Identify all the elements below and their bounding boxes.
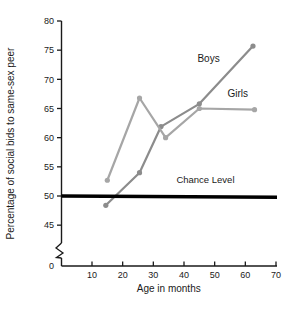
y-axis-title: Percentage of social bids to same-sex pe… — [5, 47, 16, 239]
annotation-boys: Boys — [197, 53, 219, 64]
line-chart: 4550556065707580010203040506070Age in mo… — [0, 0, 303, 320]
x-tick-label-60: 60 — [240, 270, 250, 280]
y-tick-label-45: 45 — [44, 220, 54, 230]
data-point-boys-3 — [197, 101, 202, 106]
data-point-girls-1 — [137, 95, 142, 100]
x-tick-label-30: 30 — [148, 270, 158, 280]
data-point-boys-4 — [250, 43, 255, 48]
y-tick-label-80: 80 — [44, 16, 54, 26]
y-tick-label-zero: 0 — [49, 261, 54, 271]
chance-level-line — [62, 196, 278, 197]
data-point-girls-4 — [252, 107, 257, 112]
x-tick-label-50: 50 — [210, 270, 220, 280]
x-tick-label-20: 20 — [118, 270, 128, 280]
x-tick-label-40: 40 — [179, 270, 189, 280]
y-axis-break-icon — [56, 243, 63, 258]
y-tick-label-60: 60 — [44, 133, 54, 143]
annotation-chance-level: Chance Level — [176, 174, 234, 185]
data-point-girls-0 — [105, 178, 110, 183]
y-tick-label-55: 55 — [44, 162, 54, 172]
x-tick-label-70: 70 — [271, 270, 281, 280]
series-line-girls — [107, 98, 254, 180]
x-axis-title: Age in months — [137, 283, 201, 294]
y-tick-label-75: 75 — [44, 45, 54, 55]
data-point-boys-1 — [137, 170, 142, 175]
data-point-girls-2 — [163, 135, 168, 140]
data-point-girls-3 — [197, 106, 202, 111]
y-tick-label-70: 70 — [44, 75, 54, 85]
annotation-girls: Girls — [227, 88, 248, 99]
chart-container: 4550556065707580010203040506070Age in mo… — [0, 0, 303, 320]
y-tick-label-65: 65 — [44, 104, 54, 114]
data-point-boys-0 — [103, 203, 108, 208]
x-tick-label-10: 10 — [87, 270, 97, 280]
y-tick-label-50: 50 — [44, 191, 54, 201]
